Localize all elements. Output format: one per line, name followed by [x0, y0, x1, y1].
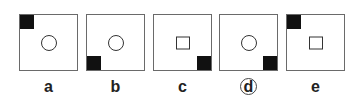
label-c: c [153, 78, 212, 96]
square-shape [176, 36, 190, 49]
circle-shape [241, 35, 257, 51]
black-corner-square [87, 56, 101, 70]
black-corner-square [197, 56, 211, 70]
label-d: d [219, 78, 278, 96]
option-d[interactable] [219, 14, 278, 71]
black-corner-square [263, 56, 277, 70]
label-b: b [86, 78, 145, 96]
black-corner-square [20, 15, 34, 29]
label-e: e [286, 78, 345, 96]
option-a[interactable] [19, 14, 78, 71]
option-b[interactable] [86, 14, 145, 71]
circle-shape [108, 35, 124, 51]
label-a: a [19, 78, 78, 96]
option-e[interactable] [286, 14, 345, 71]
square-shape [309, 36, 323, 49]
black-corner-square [287, 15, 301, 29]
option-c[interactable] [153, 14, 212, 71]
circle-shape [41, 35, 57, 51]
selected-answer-circle: d [240, 78, 257, 95]
